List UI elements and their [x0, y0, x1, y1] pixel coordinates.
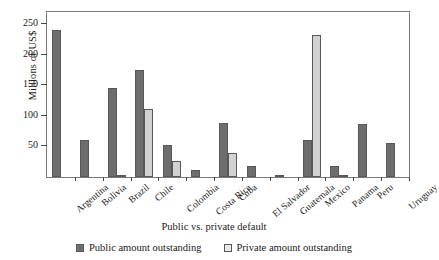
bar-public [219, 123, 228, 177]
bar-group [303, 12, 321, 177]
y-axis-tick-label: 250 [23, 17, 38, 28]
bar-group [275, 12, 293, 177]
bar-group [219, 12, 237, 177]
legend-swatch-private-icon [224, 244, 232, 252]
y-axis-tick-label: 50 [28, 139, 38, 150]
bar-group [247, 12, 265, 177]
legend-entry-private: Private amount outstanding [224, 242, 353, 253]
bar-public [191, 170, 200, 177]
legend-entry-public: Public amount outstanding [76, 242, 202, 253]
bar-private [172, 161, 181, 178]
legend-label-public: Public amount outstanding [89, 242, 202, 253]
x-axis-tick [298, 177, 299, 181]
bar-group [163, 12, 181, 177]
bar-public [135, 70, 144, 177]
bar-public [80, 140, 89, 177]
bar-group [135, 12, 153, 177]
legend-label-private: Private amount outstanding [237, 242, 353, 253]
x-axis-category-label: Peru [375, 182, 395, 201]
bar-group [386, 12, 404, 177]
y-axis-tick: 50 [41, 145, 47, 146]
bar-private [117, 175, 126, 177]
plot-frame: 50100150200250 [46, 11, 410, 178]
x-axis-title: Public vs. private default [0, 221, 428, 232]
bar-public [330, 166, 339, 177]
y-axis-tick-label: 200 [23, 48, 38, 59]
x-axis-tick [214, 177, 215, 181]
bar-public [247, 166, 256, 177]
x-axis-tick [381, 177, 382, 181]
bar-public [303, 140, 312, 177]
plot-area: 50100150200250 [47, 12, 409, 177]
bar-public [358, 124, 367, 177]
x-axis-tick [325, 177, 326, 181]
y-axis-tick-label: 100 [23, 109, 38, 120]
x-axis-tick [242, 177, 243, 181]
x-axis-category-label: Cuba [237, 182, 259, 203]
x-axis-tick [158, 177, 159, 181]
x-axis-category-label: Chile [153, 182, 176, 203]
bar-group [330, 12, 348, 177]
bar-group [191, 12, 209, 177]
bar-public [163, 145, 172, 177]
bar-private [144, 109, 153, 177]
y-axis-tick: 200 [41, 54, 47, 55]
bar-private [312, 35, 321, 177]
x-axis-tick [409, 177, 410, 181]
bar-group [358, 12, 376, 177]
bar-public [52, 30, 61, 177]
x-axis-category-label: Panama [351, 182, 381, 209]
y-axis-tick-label: 150 [23, 78, 38, 89]
bar-public [275, 175, 284, 177]
chart-legend: Public amount outstanding Private amount… [0, 242, 428, 253]
bar-private [339, 175, 348, 177]
bar-public [386, 143, 395, 177]
x-axis-tick [75, 177, 76, 181]
bar-private [228, 153, 237, 177]
x-axis-category-label: Brazil [126, 182, 151, 205]
bar-public [108, 88, 117, 177]
y-axis-tick: 150 [41, 84, 47, 85]
legend-swatch-public-icon [76, 244, 84, 252]
x-axis-tick [270, 177, 271, 181]
x-axis-tick [353, 177, 354, 181]
x-axis-tick [131, 177, 132, 181]
y-axis-tick: 250 [41, 23, 47, 24]
bar-group [80, 12, 98, 177]
x-axis-tick [186, 177, 187, 181]
bar-group [52, 12, 70, 177]
x-axis-category-label: Uruguay [407, 182, 439, 211]
bar-group [108, 12, 126, 177]
y-axis-tick: 100 [41, 115, 47, 116]
